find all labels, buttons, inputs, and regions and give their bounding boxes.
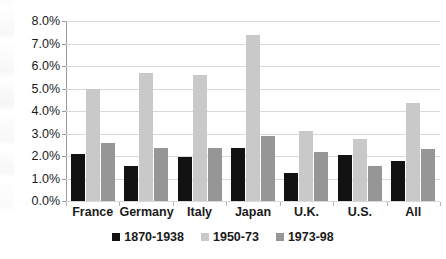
bar[interactable] xyxy=(193,75,207,201)
bar[interactable] xyxy=(338,155,352,201)
y-axis-tick-mark xyxy=(62,44,66,45)
bar[interactable] xyxy=(71,154,85,201)
bar-group xyxy=(280,21,333,201)
chart-legend: 1870-19381950-731973-98 xyxy=(0,231,446,244)
y-axis-tick-mark xyxy=(62,66,66,67)
y-axis-tick-label: 7.0% xyxy=(2,38,60,51)
bar[interactable] xyxy=(284,173,298,201)
bar[interactable] xyxy=(124,166,138,201)
y-axis-tick-label: 4.0% xyxy=(2,105,60,118)
legend-item[interactable]: 1870-1938 xyxy=(112,231,184,244)
bar[interactable] xyxy=(154,148,168,201)
bar[interactable] xyxy=(421,149,435,201)
bar[interactable] xyxy=(391,161,405,202)
legend-item[interactable]: 1973-98 xyxy=(276,231,334,244)
y-axis-tick-label: 6.0% xyxy=(2,60,60,73)
y-axis-tick-label: 1.0% xyxy=(2,173,60,186)
bar[interactable] xyxy=(178,157,192,201)
x-axis-category-label: U.S. xyxy=(333,206,386,219)
y-axis-tick-mark xyxy=(62,179,66,180)
bar-group xyxy=(119,21,172,201)
bar[interactable] xyxy=(231,148,245,201)
legend-label: 1870-1938 xyxy=(124,231,184,244)
x-axis-category-label: France xyxy=(66,206,119,219)
bar-group xyxy=(173,21,226,201)
bar[interactable] xyxy=(261,136,275,201)
bar-group xyxy=(226,21,279,201)
y-axis-tick-mark xyxy=(62,89,66,90)
plot-area xyxy=(66,21,440,201)
bar-group xyxy=(387,21,440,201)
y-axis-tick-label: 2.0% xyxy=(2,150,60,163)
y-axis-tick-label: 8.0% xyxy=(2,15,60,28)
bar[interactable] xyxy=(314,152,328,202)
y-axis-tick-mark xyxy=(62,111,66,112)
x-axis-tick-mark xyxy=(440,202,441,206)
legend-swatch-icon xyxy=(276,233,284,241)
gridline xyxy=(66,201,440,202)
bar[interactable] xyxy=(101,143,115,202)
bar[interactable] xyxy=(299,131,313,201)
legend-label: 1950-73 xyxy=(213,231,259,244)
y-axis-tick-label: 5.0% xyxy=(2,83,60,96)
y-axis-tick-label: 0.0% xyxy=(2,195,60,208)
bar-group xyxy=(333,21,386,201)
bar[interactable] xyxy=(406,103,420,201)
legend-swatch-icon xyxy=(201,233,209,241)
bar[interactable] xyxy=(368,166,382,201)
legend-swatch-icon xyxy=(112,233,120,241)
y-axis-tick-mark xyxy=(62,21,66,22)
bar-group xyxy=(66,21,119,201)
x-axis-category-label: Germany xyxy=(119,206,172,219)
grouped-bar-chart: 0.0%1.0%2.0%3.0%4.0%5.0%6.0%7.0%8.0% 187… xyxy=(0,0,446,259)
legend-label: 1973-98 xyxy=(288,231,334,244)
bar[interactable] xyxy=(353,139,367,201)
y-axis-tick-mark xyxy=(62,156,66,157)
bar[interactable] xyxy=(139,73,153,201)
x-axis-category-label: U.K. xyxy=(280,206,333,219)
bar[interactable] xyxy=(246,35,260,202)
y-axis-tick-mark xyxy=(62,134,66,135)
x-axis-category-label: All xyxy=(387,206,440,219)
y-axis-labels: 0.0%1.0%2.0%3.0%4.0%5.0%6.0%7.0%8.0% xyxy=(0,0,60,259)
x-axis-category-label: Italy xyxy=(173,206,226,219)
y-axis-tick-label: 3.0% xyxy=(2,128,60,141)
x-axis-category-label: Japan xyxy=(226,206,279,219)
bar[interactable] xyxy=(86,89,100,202)
legend-item[interactable]: 1950-73 xyxy=(201,231,259,244)
bar[interactable] xyxy=(208,148,222,201)
